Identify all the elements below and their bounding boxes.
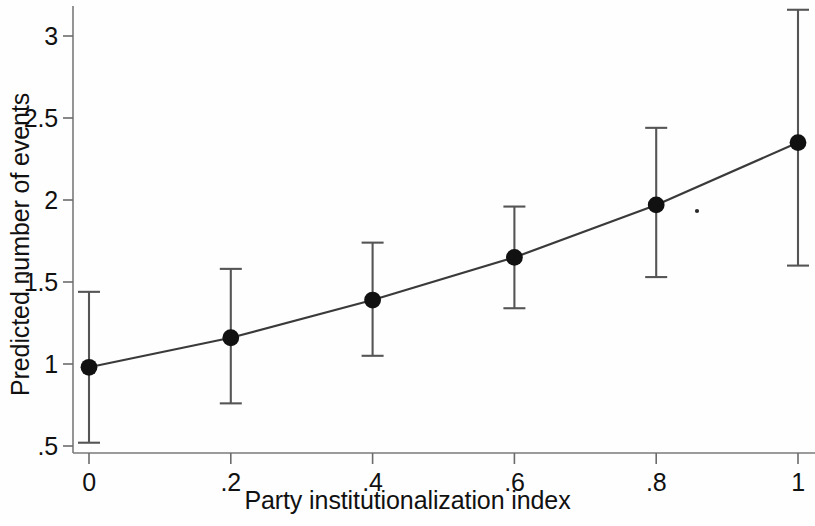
error-bars <box>78 10 809 443</box>
data-markers <box>81 134 807 375</box>
data-line <box>89 143 798 368</box>
data-point-marker <box>364 292 381 309</box>
x-axis-title: Party institutionalization index <box>0 486 815 515</box>
series-line <box>89 143 798 368</box>
data-point-marker <box>222 329 239 346</box>
y-axis-tick-label: .5 <box>38 432 58 461</box>
y-axis-tick-label: 1 <box>44 350 58 379</box>
data-point-marker <box>790 134 807 151</box>
y-axis-title: Predicted number of events <box>6 93 35 396</box>
scan-artifact <box>695 209 699 213</box>
data-point-marker <box>81 359 98 376</box>
y-axis-tick-label: 2 <box>44 186 58 215</box>
x-axis-ticks <box>89 453 798 464</box>
chart-plot-area <box>0 0 815 526</box>
y-axis-tick-label: 3 <box>44 22 58 51</box>
chart-figure: .511.522.53 0.2.4.6.81 Predicted number … <box>0 0 815 526</box>
axis-lines <box>73 6 815 453</box>
y-axis-ticks <box>63 36 73 446</box>
data-point-marker <box>648 197 665 214</box>
data-point-marker <box>506 249 523 266</box>
